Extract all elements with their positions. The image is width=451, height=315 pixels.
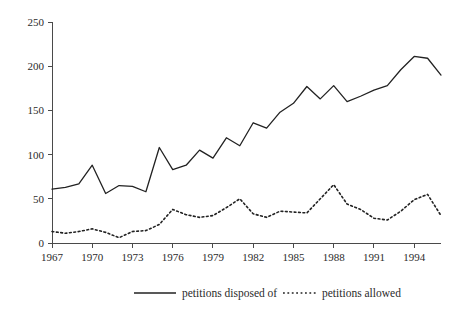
x-tick-label: 1976 <box>162 251 185 263</box>
x-tick-label: 1994 <box>403 251 426 263</box>
x-tick-label: 1991 <box>363 251 385 263</box>
x-tick-label: 1985 <box>282 251 305 263</box>
y-axis-ticks <box>48 22 52 243</box>
x-tick-label: 1967 <box>41 251 64 263</box>
y-tick-label: 250 <box>28 16 45 28</box>
y-axis: 050100150200250 <box>28 16 53 249</box>
y-tick-label: 0 <box>39 237 45 249</box>
chart-legend: petitions disposed of petitions allowed <box>134 287 401 300</box>
y-tick-label: 150 <box>28 104 45 116</box>
line-chart: 050100150200250 196719701973197619791982… <box>0 0 451 315</box>
x-axis-tick-labels: 1967197019731976197919821985198819911994 <box>41 251 426 263</box>
series-petitions-disposed-of <box>52 56 441 193</box>
chart-figure: 050100150200250 196719701973197619791982… <box>0 0 451 315</box>
x-axis: 1967197019731976197919821985198819911994 <box>41 243 441 263</box>
x-tick-label: 1982 <box>242 251 264 263</box>
legend-label-petitions-allowed: petitions allowed <box>322 287 401 300</box>
y-tick-label: 200 <box>28 60 45 72</box>
y-tick-label: 100 <box>28 149 45 161</box>
series-lines <box>52 56 441 237</box>
x-tick-label: 1970 <box>81 251 104 263</box>
series-petitions-allowed <box>52 185 441 238</box>
x-axis-ticks <box>52 243 414 248</box>
x-tick-label: 1988 <box>323 251 346 263</box>
legend-label-petitions-disposed-of: petitions disposed of <box>182 287 277 300</box>
x-tick-label: 1979 <box>202 251 225 263</box>
y-axis-tick-labels: 050100150200250 <box>28 16 45 249</box>
y-tick-label: 50 <box>33 193 45 205</box>
x-tick-label: 1973 <box>121 251 144 263</box>
